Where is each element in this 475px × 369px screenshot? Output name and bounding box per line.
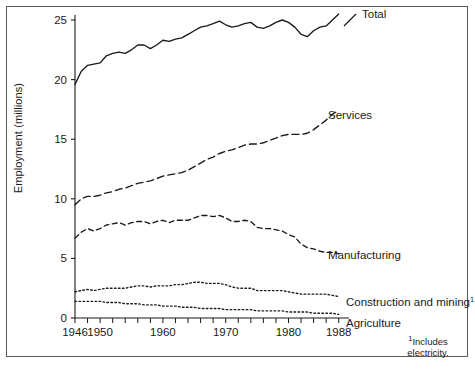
series-label-services: Services — [328, 109, 372, 121]
series-line-manufacturing — [75, 215, 339, 253]
series-label-manufacturing: Manufacturing — [328, 249, 401, 261]
series-line-services — [75, 111, 339, 205]
series-label-construction: Construction and mining1 — [346, 295, 474, 308]
y-tick-label: 5 — [61, 252, 67, 264]
x-tick-label: 1970 — [213, 326, 239, 338]
total-leader — [344, 14, 356, 26]
series-line-agriculture — [75, 301, 339, 314]
y-tick-label: 15 — [54, 133, 67, 145]
x-tick-label: 1980 — [276, 326, 302, 338]
series-label-total: Total — [362, 8, 386, 20]
y-tick-label: 0 — [61, 312, 67, 324]
x-tick-label: 1950 — [87, 326, 113, 338]
series-line-total — [75, 14, 339, 84]
x-tick-label: 1960 — [150, 326, 176, 338]
plot-area: 0510152025194619501960197019801988TotalS… — [0, 0, 475, 369]
series-label-agriculture: Agriculture — [346, 317, 401, 329]
employment-line-chart: Employment (millions) 1Includes electric… — [0, 0, 475, 369]
x-tick-label: 1946 — [62, 326, 88, 338]
y-tick-label: 20 — [54, 74, 67, 86]
y-tick-label: 25 — [54, 14, 67, 26]
y-tick-label: 10 — [54, 193, 67, 205]
series-line-construction — [75, 282, 339, 296]
